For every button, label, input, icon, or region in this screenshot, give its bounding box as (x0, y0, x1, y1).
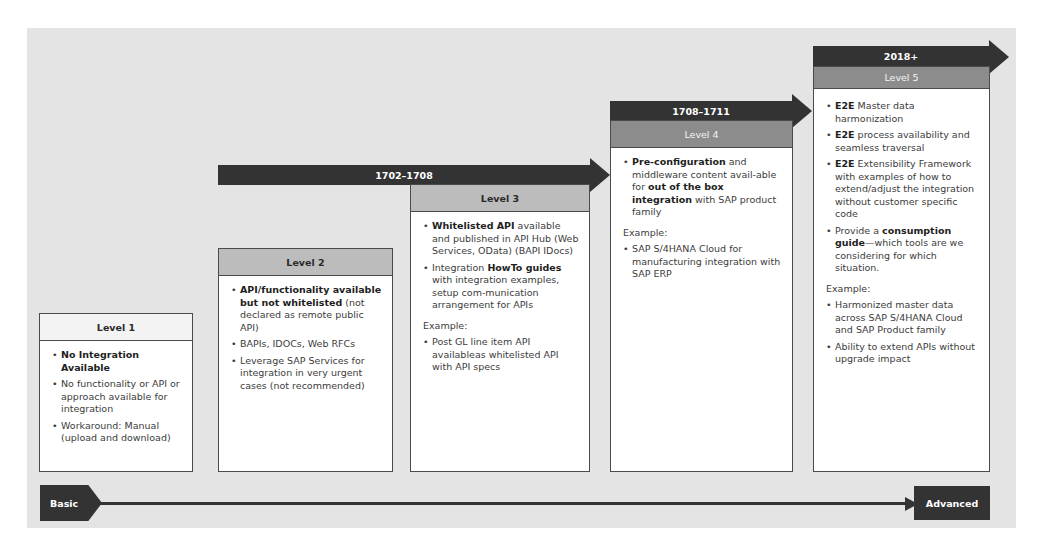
level-1-header: Level 1 (40, 314, 192, 341)
bullet-item: No Integration Available (52, 349, 182, 374)
bullet-item: E2E Extensibility Framework with example… (826, 158, 979, 221)
bullet-item: E2E process availability and seamless tr… (826, 129, 979, 154)
timeframe-arrow-1708-1711: 1708–1711 (610, 101, 792, 121)
axis-line-start (98, 502, 150, 505)
example-label: Example: (423, 320, 579, 333)
progression-axis-line (148, 502, 918, 505)
level-5-header: Level 5 (814, 67, 989, 89)
bullet-item: Provide a consumption guide—which tools … (826, 225, 979, 275)
timeframe-label: 2018+ (884, 51, 918, 62)
level-4-header: Level 4 (611, 121, 792, 148)
level-1-box: Level 1 No Integration Available No func… (39, 313, 193, 472)
level-2-body: API/functionality available but not whit… (219, 275, 392, 471)
bullet-item: BAPIs, IDOCs, Web RFCs (231, 338, 382, 351)
timeframe-arrow-2018: 2018+ (813, 46, 989, 67)
level-5-body: E2E Master data harmonization E2E proces… (814, 88, 989, 471)
example-item: Post GL line item API availableas whitel… (423, 336, 579, 374)
timeframe-label: 1708–1711 (672, 106, 730, 117)
level-1-body: No Integration Available No functionalit… (40, 340, 192, 471)
example-item: SAP S/4HANA Cloud for manufacturing inte… (623, 243, 782, 281)
level-3-body: Whitelisted API available and published … (411, 211, 589, 471)
level-5-box: Level 5 E2E Master data harmonization E2… (813, 66, 990, 472)
timeframe-arrow-1702-1708: 1702–1708 (218, 165, 590, 185)
level-2-header: Level 2 (219, 249, 392, 276)
bullet-item: Workaround: Manual (upload and download) (52, 420, 182, 445)
level-3-header: Level 3 (411, 185, 589, 212)
bullet-item: Leverage SAP Services for integration in… (231, 355, 382, 393)
example-label: Example: (623, 227, 782, 240)
level-4-box: Level 4 Pre-configuration and middleware… (610, 120, 793, 472)
bullet-item: Whitelisted API available and published … (423, 220, 579, 258)
example-item: Ability to extend APIs without upgrade i… (826, 341, 979, 366)
bullet-item: Pre-configuration and middleware content… (623, 156, 782, 219)
bullet-item: API/functionality available but not whit… (231, 284, 382, 334)
level-4-body: Pre-configuration and middleware content… (611, 147, 792, 471)
advanced-label: Advanced (914, 486, 990, 520)
level-3-box: Level 3 Whitelisted API available and pu… (410, 184, 590, 472)
bullet-item: No functionality or API or approach avai… (52, 378, 182, 416)
example-label: Example: (826, 283, 979, 296)
bullet-item: E2E Master data harmonization (826, 100, 979, 125)
bullet-item: Integration HowTo guides with integratio… (423, 262, 579, 312)
timeframe-label: 1702–1708 (375, 170, 433, 181)
level-2-box: Level 2 API/functionality available but … (218, 248, 393, 472)
example-item: Harmonized master data across SAP S/4HAN… (826, 299, 979, 337)
